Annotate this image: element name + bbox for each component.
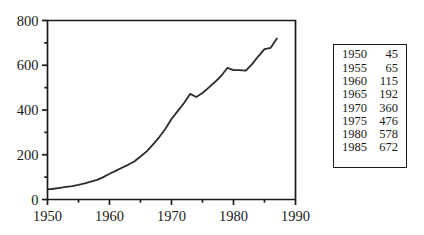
- table-cell-year: 1960: [334, 75, 374, 88]
- y-axis-tick-label: 0: [31, 192, 38, 208]
- y-axis-tick-label: 800: [17, 13, 39, 29]
- table-cell-year: 1970: [334, 101, 374, 114]
- table-cell-value: 115: [374, 75, 406, 88]
- table-cell-year: 1985: [334, 141, 374, 154]
- table-row: 195045: [334, 48, 406, 61]
- chart-canvas: 020040060080019501960197019801990: [0, 0, 316, 235]
- y-axis-tick-label: 400: [17, 102, 39, 118]
- x-axis-tick-label: 1980: [219, 208, 248, 224]
- data-table-body: 1950451955651960115196519219703601975476…: [334, 48, 406, 154]
- table-row: 1960115: [334, 75, 406, 88]
- table-row: 1980578: [334, 128, 406, 141]
- table-row: 1985672: [334, 141, 406, 154]
- table-cell-value: 672: [374, 141, 406, 154]
- table-cell-value: 65: [374, 61, 406, 74]
- table-cell-year: 1980: [334, 128, 374, 141]
- table-row: 195565: [334, 61, 406, 74]
- x-axis-tick-label: 1950: [33, 208, 62, 224]
- table-cell-value: 192: [374, 88, 406, 101]
- table-cell-value: 45: [374, 48, 406, 61]
- table-cell-value: 360: [374, 101, 406, 114]
- figure: 020040060080019501960197019801990 195045…: [0, 0, 424, 235]
- data-value-table: 1950451955651960115196519219703601975476…: [333, 44, 407, 168]
- x-axis-tick-label: 1960: [95, 208, 124, 224]
- table-cell-year: 1975: [334, 114, 374, 127]
- table-cell-value: 578: [374, 128, 406, 141]
- table-cell-year: 1950: [334, 48, 374, 61]
- table-cell-year: 1955: [334, 61, 374, 74]
- table-row: 1975476: [334, 114, 406, 127]
- table-row: 1970360: [334, 101, 406, 114]
- y-axis-tick-label: 200: [17, 147, 39, 163]
- data-table: 1950451955651960115196519219703601975476…: [334, 48, 406, 154]
- line-chart: 020040060080019501960197019801990: [0, 0, 316, 235]
- y-axis-tick-label: 600: [17, 57, 39, 73]
- table-cell-year: 1965: [334, 88, 374, 101]
- table-row: 1965192: [334, 88, 406, 101]
- x-axis-tick-label: 1990: [281, 208, 310, 224]
- plot-frame: [48, 21, 296, 200]
- x-axis-tick-label: 1970: [157, 208, 186, 224]
- table-cell-value: 476: [374, 114, 406, 127]
- data-line-series-1: [48, 38, 277, 189]
